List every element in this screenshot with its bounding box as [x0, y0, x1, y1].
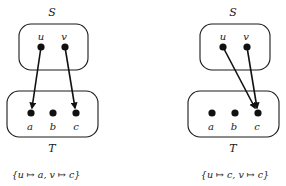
target-set-label: T: [48, 142, 57, 155]
element-dot-a: [208, 109, 215, 116]
element-label-a: a: [27, 121, 33, 132]
element-label-c: c: [254, 121, 260, 132]
element-dot-a: [27, 109, 34, 116]
mapping-caption: {u ↦ c, v ↦ c}: [201, 169, 269, 180]
source-set-box: [19, 24, 88, 70]
element-dot-b: [49, 109, 56, 116]
element-label-u: u: [220, 31, 226, 42]
mapping-caption: {u ↦ a, v ↦ c}: [12, 169, 81, 180]
arrow-v-to-c: [247, 47, 257, 108]
arrow-u-to-a: [32, 47, 41, 108]
element-label-v: v: [243, 31, 249, 42]
element-label-a: a: [208, 121, 214, 132]
element-label-b: b: [231, 121, 237, 132]
element-label-v: v: [61, 31, 67, 42]
source-set-box: [200, 24, 270, 70]
arrow-v-to-c: [65, 47, 75, 108]
diagram-left: S u v a b c T {u ↦ a, v ↦ c}: [7, 6, 98, 180]
element-label-c: c: [73, 121, 79, 132]
arrow-u-to-c: [223, 47, 255, 108]
element-dot-b: [231, 109, 238, 116]
source-set-label: S: [48, 6, 56, 19]
element-dot-c: [254, 109, 261, 116]
function-mapping-figure: S u v a b c T {u ↦ a, v ↦ c} S u v a b c…: [0, 0, 286, 186]
diagram-right: S u v a b c T {u ↦ c, v ↦ c}: [188, 6, 279, 180]
source-set-label: S: [229, 6, 237, 19]
target-set-label: T: [229, 142, 238, 155]
element-dot-c: [72, 109, 79, 116]
element-label-u: u: [38, 31, 44, 42]
element-label-b: b: [50, 121, 56, 132]
